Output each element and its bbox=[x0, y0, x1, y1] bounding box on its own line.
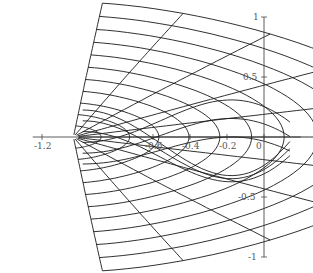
conformal-plot: -1.2-0.6-0.4-0.2010.5-0.5-1 bbox=[0, 0, 313, 273]
x-tick-label: 0 bbox=[256, 141, 262, 151]
x-tick-label: -0.4 bbox=[182, 141, 200, 151]
radial-curve bbox=[78, 63, 313, 136]
x-tick-label: -1.2 bbox=[34, 141, 51, 151]
radial-curve bbox=[74, 139, 103, 271]
x-tick-label: -0.2 bbox=[219, 141, 236, 151]
radial-curve bbox=[74, 3, 103, 135]
radial-curve bbox=[79, 99, 313, 137]
y-tick-label: -1 bbox=[248, 252, 257, 262]
y-tick-label: 1 bbox=[253, 12, 259, 22]
crossing-curve bbox=[83, 132, 290, 182]
y-tick-label: -0.5 bbox=[238, 192, 256, 202]
y-tick-label: 0.5 bbox=[243, 72, 258, 82]
x-tick-label: -0.6 bbox=[145, 141, 163, 151]
